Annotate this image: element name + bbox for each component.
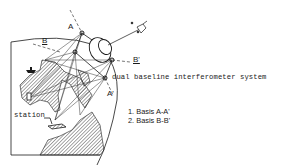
system-label: dual baseline interferometer system xyxy=(112,73,266,81)
label-point-a: A xyxy=(68,22,73,31)
interferometer-diagram: A B B' A' dual baseline interferometer s… xyxy=(0,0,300,167)
label-point-a-prime: A' xyxy=(107,89,114,98)
legend-item: 2. Basis B-B' xyxy=(128,117,170,126)
diagram-drawing xyxy=(0,0,300,167)
ship-icon xyxy=(26,67,36,73)
legend-text: Basis B-B' xyxy=(136,116,170,125)
label-point-b-prime: B' xyxy=(133,55,140,64)
label-point-b: B xyxy=(42,36,47,45)
landmass-hatched xyxy=(20,60,104,155)
legend-index: 2. xyxy=(128,116,134,125)
station-label: station xyxy=(14,111,45,119)
satellite-icon xyxy=(108,21,147,45)
legend: 1. Basis A-A' 2. Basis B-B' xyxy=(128,108,170,125)
